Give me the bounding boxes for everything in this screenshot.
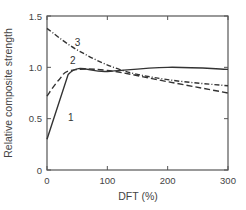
series-line-1: [47, 67, 228, 139]
y-tick-label: 0: [37, 165, 42, 176]
data-series: 123: [47, 28, 228, 139]
series-line-2: [47, 69, 228, 96]
x-axis-label: DFT (%): [118, 190, 157, 202]
x-tick-label: 200: [160, 175, 176, 186]
curve-label-2: 2: [70, 55, 76, 66]
y-axis-label: Relative composite strength: [2, 28, 14, 158]
y-tick-label: 1.5: [29, 11, 42, 22]
y-tick-label: 0.5: [29, 113, 42, 124]
x-tick-label: 100: [99, 175, 115, 186]
curve-label-1: 1: [68, 112, 74, 123]
curve-label-3: 3: [75, 37, 81, 48]
x-tick-label: 300: [220, 175, 236, 186]
x-tick-label: 0: [44, 175, 49, 186]
y-tick-label: 1.0: [29, 62, 42, 73]
chart: 010020030000.51.01.5 123 DFT (%) Relativ…: [0, 0, 246, 210]
